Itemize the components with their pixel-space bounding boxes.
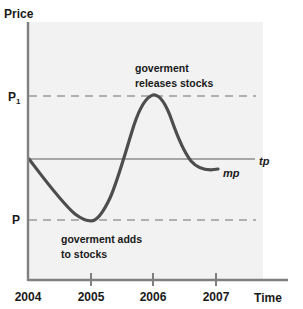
curve-label-tp: tp [259, 155, 270, 167]
annotation-releases-stocks-line2: releases stocks [135, 77, 213, 89]
price-support-chart-figure: Price Time P 1 P 2004 2005 2006 2007 gov… [0, 0, 303, 309]
x-tick-label-2004: 2004 [15, 290, 42, 304]
annotation-adds-to-stocks-line2: to stocks [61, 248, 107, 260]
x-tick-label-2007: 2007 [203, 290, 230, 304]
x-tick-label-2006: 2006 [140, 290, 167, 304]
chart-canvas: Price Time P 1 P 2004 2005 2006 2007 gov… [0, 0, 303, 309]
y-tick-label-p: P [12, 213, 20, 227]
y-tick-label-p1-subscript: 1 [16, 97, 21, 106]
y-tick-label-p1: P [8, 90, 16, 104]
annotation-releases-stocks-line1: goverment [135, 62, 189, 74]
y-axis-title: Price [4, 7, 34, 21]
x-tick-label-2005: 2005 [78, 290, 105, 304]
curve-label-mp: mp [223, 167, 240, 179]
x-axis-title: Time [254, 291, 282, 305]
annotation-adds-to-stocks-line1: goverment adds [61, 233, 142, 245]
